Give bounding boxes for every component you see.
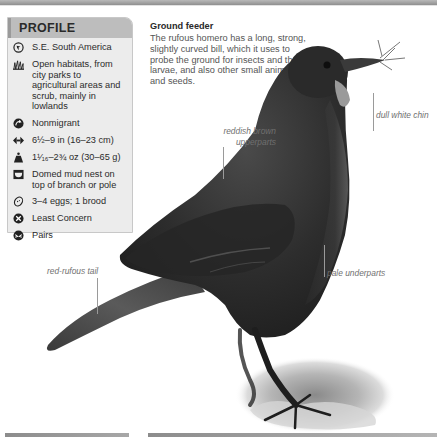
annotation-upperparts-1: reddish brown bbox=[173, 126, 276, 136]
bird-photo-rufous-hornero bbox=[0, 0, 437, 437]
underparts-leader-line bbox=[324, 245, 325, 277]
bird-bill bbox=[340, 58, 385, 72]
bird-illustration bbox=[0, 0, 437, 437]
bottom-bar-right bbox=[148, 433, 437, 437]
annotation-tail: red-rufous tail bbox=[47, 266, 98, 276]
upperparts-leader-line bbox=[223, 147, 224, 179]
tail-leader-line bbox=[97, 278, 98, 314]
prey-insect bbox=[378, 40, 405, 70]
bird-eye bbox=[324, 62, 331, 69]
annotation-chin: dull white chin bbox=[376, 110, 429, 120]
chin-leader-line bbox=[373, 93, 374, 131]
bottom-bar-left bbox=[5, 433, 129, 437]
annotation-underparts: pale underparts bbox=[327, 268, 385, 278]
annotation-upperparts-2: upperparts bbox=[173, 137, 276, 147]
